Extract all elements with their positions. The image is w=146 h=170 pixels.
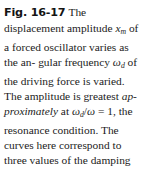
symbol-omega-2: ω (72, 105, 80, 117)
symbol-omega: ω (113, 56, 121, 68)
symbol-omega-natural: ω (87, 105, 95, 117)
caption-text-2: amplitude (67, 22, 113, 34)
symbol-omega-subscript: d (121, 61, 125, 70)
symbol-x-subscript: m (120, 27, 126, 36)
caption-emph-proximately: proximately (4, 105, 58, 117)
figure-label: Fig. 16-17 (4, 6, 65, 19)
symbol-displacement-amplitude: xm (115, 22, 126, 34)
figure-caption: Fig. 16-17The displacement amplitude xm … (0, 0, 146, 170)
caption-text-11: at (61, 105, 69, 117)
caption-text-8: amplitude is greatest (25, 90, 119, 102)
caption-period: . (51, 169, 54, 170)
equation-resonance-ratio: ωd/ω (72, 105, 95, 117)
symbol-damping-constant-group: b. (42, 169, 53, 170)
caption-text-12: = 1, (98, 105, 116, 117)
symbol-driving-frequency: ωd (113, 56, 125, 68)
caption-text-5: gular frequency (38, 56, 110, 68)
caption-emph-ap: ap- (122, 90, 137, 102)
